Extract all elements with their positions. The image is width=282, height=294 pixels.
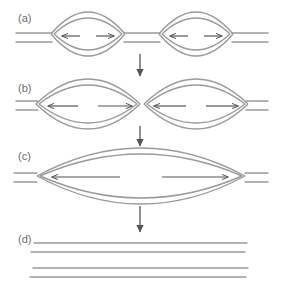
bubble-outer-arc-top	[51, 12, 125, 34]
bubble-inner-arc-top	[40, 154, 242, 176]
panel-label-c: (c)	[18, 150, 31, 162]
bubble-outer-arc-bottom	[36, 104, 140, 129]
fork-arrow-layer	[48, 36, 238, 177]
bubble-outer-arc-bottom	[144, 104, 248, 129]
panel-label-layer: (a)(b)(c)(d)	[18, 12, 31, 245]
panel-label-d: (d)	[18, 233, 31, 245]
dna-replication-diagram: (a)(b)(c)(d)	[0, 0, 282, 294]
bubble-inner-arc-bottom	[40, 176, 242, 198]
bubble-outer-arc-top	[36, 79, 140, 104]
panel-label-a: (a)	[18, 12, 31, 24]
bubble-outer-arc-top	[144, 79, 248, 104]
bubble-inner-arc-top	[39, 85, 137, 104]
bubble-layer	[36, 12, 248, 204]
bubble-outer-arc-bottom	[51, 34, 125, 56]
bubble-inner-arc-bottom	[147, 104, 245, 123]
bubble-outer-arc-bottom	[37, 176, 245, 204]
bubble-outer-arc-top	[37, 148, 245, 176]
strand-layer	[14, 33, 268, 277]
bubble-inner-arc-top	[147, 85, 245, 104]
bubble-inner-arc-bottom	[39, 104, 137, 123]
bubble-outer-arc-bottom	[159, 34, 233, 56]
panel-label-b: (b)	[18, 82, 31, 94]
bubble-outer-arc-top	[159, 12, 233, 34]
diagram-canvas: (a)(b)(c)(d)	[0, 0, 282, 294]
